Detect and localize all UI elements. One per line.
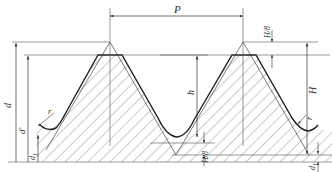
crest-truncation-label: H/8 <box>263 26 272 39</box>
dprime-label: d' <box>17 127 27 135</box>
minor-diameter-label-left: d1 <box>28 153 38 160</box>
thread-depth-label: h <box>185 90 196 95</box>
root-truncation-label: H/8 <box>201 151 210 164</box>
thread-profile-drawing: P d d' d1 r h H/8 H/8 H r d1 <box>0 0 332 172</box>
radius-label-right: r <box>304 116 314 120</box>
minor-diameter-label-right: d1 <box>308 163 318 170</box>
fundamental-height-label: H <box>307 86 318 95</box>
radius-label-left: r <box>48 106 52 116</box>
major-diameter-label: d <box>2 102 13 108</box>
thread-hatched-section <box>36 55 332 162</box>
pitch-label: P <box>173 3 181 15</box>
